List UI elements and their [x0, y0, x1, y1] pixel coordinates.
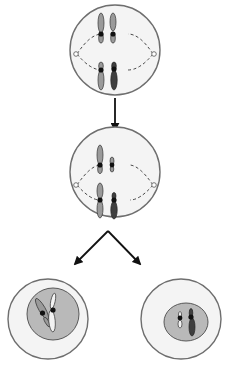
arrow-down-right [108, 231, 140, 264]
cell-division-diagram [0, 0, 229, 369]
daughter-cell-right [141, 279, 221, 359]
metaphase-cell-top [70, 5, 160, 95]
arrow-down-left [75, 231, 108, 264]
daughter-cell-left [8, 279, 88, 359]
nucleus [164, 303, 208, 341]
metaphase-cell-middle [70, 127, 160, 219]
diverging-arrows [75, 231, 140, 264]
